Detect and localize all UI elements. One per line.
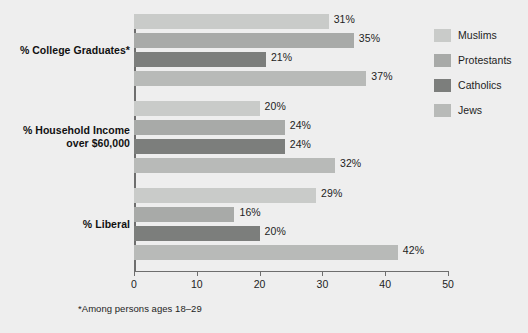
legend-swatch-icon [434, 79, 451, 92]
bar-jews [134, 158, 335, 173]
legend: MuslimsProtestantsCatholicsJews [434, 24, 528, 124]
legend-swatch-icon [434, 29, 451, 42]
bar-chart: % College Graduates*% Household Incomeov… [0, 0, 528, 333]
bar-row: 42% [134, 245, 448, 260]
x-axis-tick-label: 50 [442, 278, 454, 290]
bar-value-label: 32% [340, 157, 361, 169]
bar-value-label: 29% [321, 187, 342, 199]
bar-protestants [134, 33, 354, 48]
bar-group: 31%35%21%37% [134, 14, 448, 90]
bar-row: 37% [134, 71, 448, 86]
bar-row: 35% [134, 33, 448, 48]
x-axis-tick-label: 30 [317, 278, 329, 290]
bar-value-label: 42% [403, 244, 424, 256]
x-axis-tick [260, 271, 261, 276]
legend-swatch-icon [434, 54, 451, 67]
bar-muslims [134, 14, 329, 29]
bar-row: 29% [134, 188, 448, 203]
legend-item-protestants[interactable]: Protestants [434, 49, 528, 71]
plot-area: 31%35%21%37%20%24%24%32%29%16%20%42% [134, 14, 448, 272]
x-axis-tick-label: 20 [254, 278, 266, 290]
x-axis-tick-label: 10 [191, 278, 203, 290]
x-axis-tick-label: 0 [131, 278, 137, 290]
legend-label: Jews [458, 104, 482, 116]
bar-row: 20% [134, 101, 448, 116]
bar-row: 20% [134, 226, 448, 241]
bar-value-label: 31% [334, 13, 355, 25]
category-label: % College Graduates* [2, 44, 130, 57]
x-axis-tick [134, 271, 135, 276]
bar-value-label: 24% [290, 138, 311, 150]
x-axis-tick [322, 271, 323, 276]
bar-value-label: 24% [290, 119, 311, 131]
chart-footnote: *Among persons ages 18–29 [78, 303, 202, 314]
category-label: % Household Incomeover $60,000 [2, 124, 130, 150]
bar-jews [134, 71, 366, 86]
x-axis-tick [385, 271, 386, 276]
bar-value-label: 21% [271, 51, 292, 63]
legend-item-jews[interactable]: Jews [434, 99, 528, 121]
category-label: % Liberal [2, 218, 130, 231]
bar-group: 29%16%20%42% [134, 188, 448, 264]
bar-value-label: 37% [371, 70, 392, 82]
bar-muslims [134, 188, 316, 203]
bar-row: 31% [134, 14, 448, 29]
bar-row: 21% [134, 52, 448, 67]
bar-value-label: 35% [359, 32, 380, 44]
bar-value-label: 16% [239, 206, 260, 218]
legend-item-catholics[interactable]: Catholics [434, 74, 528, 96]
bar-protestants [134, 207, 234, 222]
bar-value-label: 20% [265, 225, 286, 237]
legend-label: Catholics [458, 79, 502, 91]
x-axis-tick [448, 271, 449, 276]
bar-row: 24% [134, 139, 448, 154]
legend-item-muslims[interactable]: Muslims [434, 24, 528, 46]
bar-jews [134, 245, 398, 260]
legend-label: Protestants [458, 54, 512, 66]
bar-row: 32% [134, 158, 448, 173]
legend-swatch-icon [434, 104, 451, 117]
bar-group: 20%24%24%32% [134, 101, 448, 177]
bar-value-label: 20% [265, 100, 286, 112]
bar-catholics [134, 52, 266, 67]
bar-catholics [134, 226, 260, 241]
x-axis-tick-label: 40 [379, 278, 391, 290]
bar-row: 16% [134, 207, 448, 222]
legend-label: Muslims [458, 29, 497, 41]
x-axis-tick [197, 271, 198, 276]
bar-muslims [134, 101, 260, 116]
bar-protestants [134, 120, 285, 135]
bar-row: 24% [134, 120, 448, 135]
bar-catholics [134, 139, 285, 154]
